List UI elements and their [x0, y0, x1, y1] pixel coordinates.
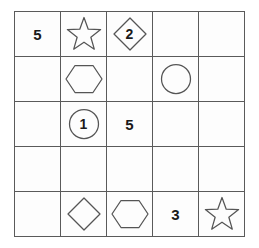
cell-r5c2[interactable]: [61, 192, 107, 237]
star-shape: [202, 194, 242, 234]
cell-content: 1: [61, 102, 106, 146]
cell-content: [199, 12, 244, 56]
cell-r5c1[interactable]: [15, 192, 61, 237]
cell-content: [15, 147, 60, 191]
cell-number: 5: [125, 117, 133, 132]
cell-content: [107, 192, 152, 236]
cell-r3c3[interactable]: 5: [107, 102, 153, 147]
cell-r4c4[interactable]: [153, 147, 199, 192]
cell-content: 5: [15, 12, 60, 56]
cell-r3c5[interactable]: [199, 102, 245, 147]
cell-content: [199, 57, 244, 101]
cell-content: [15, 192, 60, 236]
cell-content: 3: [153, 192, 198, 236]
cell-r1c4[interactable]: [153, 12, 199, 57]
cell-content: [107, 57, 152, 101]
cell-r5c5[interactable]: [199, 192, 245, 237]
cell-content: [61, 192, 106, 236]
puzzle-grid-diagram: 52153: [0, 0, 259, 248]
cell-r4c1[interactable]: [15, 147, 61, 192]
diamond-shape: [64, 194, 104, 234]
cell-content: [153, 57, 198, 101]
cell-r2c2[interactable]: [61, 57, 107, 102]
cell-content: [199, 192, 244, 236]
cell-content: [153, 102, 198, 146]
cell-r5c4[interactable]: 3: [153, 192, 199, 237]
cell-r2c4[interactable]: [153, 57, 199, 102]
cell-r1c2[interactable]: [61, 12, 107, 57]
cell-content: [61, 12, 106, 56]
cell-r3c1[interactable]: [15, 102, 61, 147]
cell-content: [61, 57, 106, 101]
cell-content: [61, 147, 106, 191]
cell-r1c3[interactable]: 2: [107, 12, 153, 57]
cell-r5c3[interactable]: [107, 192, 153, 237]
cell-content: 2: [107, 12, 152, 56]
hexagon-shape: [110, 194, 150, 234]
cell-content: [15, 102, 60, 146]
hexagon-shape: [64, 59, 104, 99]
cell-r4c5[interactable]: [199, 147, 245, 192]
cell-content: [153, 12, 198, 56]
cell-content: [15, 57, 60, 101]
cell-content: [107, 147, 152, 191]
cell-r2c3[interactable]: [107, 57, 153, 102]
cell-r3c4[interactable]: [153, 102, 199, 147]
cell-r3c2[interactable]: 1: [61, 102, 107, 147]
cell-r4c2[interactable]: [61, 147, 107, 192]
cell-r4c3[interactable]: [107, 147, 153, 192]
cell-r1c5[interactable]: [199, 12, 245, 57]
cell-number: 2: [126, 27, 134, 41]
cell-number: 5: [33, 27, 41, 42]
circle-shape: [156, 59, 196, 99]
cell-number: 1: [80, 117, 88, 131]
cell-r1c1[interactable]: 5: [15, 12, 61, 57]
cell-r2c1[interactable]: [15, 57, 61, 102]
cell-number: 3: [171, 207, 179, 222]
cell-content: [153, 147, 198, 191]
cell-content: [199, 147, 244, 191]
cell-content: [199, 102, 244, 146]
cell-r2c5[interactable]: [199, 57, 245, 102]
grid-container: 52153: [14, 11, 245, 237]
cell-content: 5: [107, 102, 152, 146]
star-shape: [64, 14, 104, 54]
